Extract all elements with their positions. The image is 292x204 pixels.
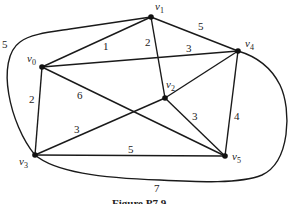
weight-label-v1-v4: 5 — [198, 20, 204, 32]
weight-label-v3-v4: 7 — [154, 182, 160, 194]
vertex-v2 — [162, 95, 168, 101]
edge-v0-v3 — [35, 67, 42, 155]
vertex-v4 — [235, 48, 241, 54]
vertex-v1 — [148, 14, 154, 20]
figure-caption: Figure P7.9 — [112, 197, 167, 204]
edge-v2-v4 — [165, 51, 238, 98]
edge-v3-v5 — [35, 155, 225, 156]
weighted-graph-diagram: 1 2 5 3 2 6 3 3 4 5 5 7 v0 v1 v2 v3 v4 v… — [0, 0, 292, 204]
weight-label-v3-v1: 5 — [2, 38, 8, 50]
edge-v3-v4-curved — [35, 51, 287, 182]
weight-label-v3-v2: 3 — [74, 123, 80, 135]
vertex-label-v3: v3 — [19, 155, 28, 170]
vertex-label-v4: v4 — [245, 37, 254, 52]
edge-v2-v5 — [165, 98, 225, 156]
weight-label-v1-v2: 2 — [145, 36, 151, 48]
edge-v3-v2 — [35, 98, 165, 155]
weight-label-v0-v3: 2 — [29, 93, 35, 105]
vertex-label-v0: v0 — [27, 52, 36, 67]
vertex-label-v2: v2 — [166, 78, 175, 93]
weight-label-v0-v1: 1 — [103, 40, 109, 52]
vertex-v0 — [39, 64, 45, 70]
edge-v4-v5 — [225, 51, 238, 156]
edge-v1-v4 — [151, 17, 238, 51]
vertex-label-v1: v1 — [155, 0, 164, 15]
weight-label-v0-v5: 6 — [77, 89, 83, 101]
weight-label-v0-v4: 3 — [186, 42, 192, 54]
weight-label-v3-v5: 5 — [128, 143, 134, 155]
weight-label-v4-v5: 4 — [234, 110, 240, 122]
vertex-v3 — [32, 152, 38, 158]
weight-label-v2-v5: 3 — [192, 110, 198, 122]
vertex-v5 — [222, 153, 228, 159]
vertex-label-v5: v5 — [232, 150, 241, 165]
